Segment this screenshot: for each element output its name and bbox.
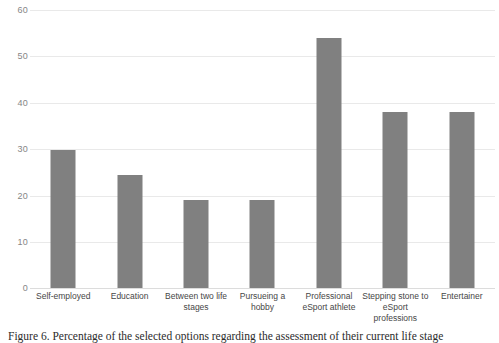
bar-between-two-life-stages[interactable] <box>184 200 209 288</box>
x-label-pursueing-a-hobby: Pursueing a hobby <box>229 291 295 313</box>
axis-baseline <box>30 288 495 289</box>
bar-slot-6 <box>429 0 495 288</box>
figure-caption: Figure 6. Percentage of the selected opt… <box>8 330 496 343</box>
y-tick-label-10: 10 <box>6 238 28 247</box>
y-tick-label-40: 40 <box>6 99 28 108</box>
x-label-entertainer: Entertainer <box>429 291 495 302</box>
chart-plot-area: 60 50 40 30 20 10 0 <box>0 0 499 288</box>
bar-slot-2 <box>163 0 229 288</box>
y-tick-label-0: 0 <box>6 284 28 293</box>
bar-education[interactable] <box>117 175 142 288</box>
bar-self-employed[interactable] <box>51 150 76 288</box>
bar-professional-esport-athlete[interactable] <box>316 38 341 288</box>
bars-layer <box>30 0 495 288</box>
bar-pursueing-a-hobby[interactable] <box>250 200 275 288</box>
x-label-self-employed: Self-employed <box>30 291 96 302</box>
bar-slot-1 <box>96 0 162 288</box>
y-tick-label-50: 50 <box>6 52 28 61</box>
bar-slot-0 <box>30 0 96 288</box>
x-label-between-two-life-stages: Between two life stages <box>163 291 229 313</box>
x-label-stepping-stone-to-esport-professions: Stepping stone to eSport professions <box>362 291 428 324</box>
bar-slot-5 <box>362 0 428 288</box>
y-tick-label-60: 60 <box>6 6 28 15</box>
bar-entertainer[interactable] <box>449 112 474 288</box>
x-label-professional-esport-athlete: Professional eSport athlete <box>296 291 362 313</box>
x-axis-category-labels: Self-employed Education Between two life… <box>30 291 495 333</box>
bar-slot-3 <box>229 0 295 288</box>
x-label-education: Education <box>96 291 162 302</box>
bar-slot-4 <box>296 0 362 288</box>
bar-stepping-stone-to-esport-professions[interactable] <box>383 112 408 288</box>
y-tick-label-20: 20 <box>6 192 28 201</box>
y-tick-label-30: 30 <box>6 145 28 154</box>
